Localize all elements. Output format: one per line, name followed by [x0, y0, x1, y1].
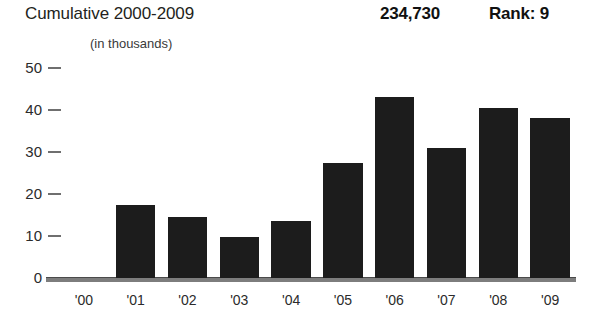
- bar: [427, 148, 466, 278]
- x-tick-label: '01: [110, 292, 162, 308]
- chart-page: Cumulative 2000-2009 234,730 Rank: 9 (in…: [0, 0, 590, 336]
- bar-series: [0, 0, 590, 336]
- x-tick-label: '04: [265, 292, 317, 308]
- bar: [530, 118, 569, 278]
- x-tick-label: '03: [213, 292, 265, 308]
- bar: [375, 97, 414, 278]
- x-tick-label: '05: [317, 292, 369, 308]
- x-tick-label: '09: [524, 292, 576, 308]
- bar-chart-plot: 01020304050 '00'01'02'03'04'05'06'07'08'…: [0, 0, 590, 336]
- x-tick-label: '06: [369, 292, 421, 308]
- x-tick-label: '02: [162, 292, 214, 308]
- bar: [168, 217, 207, 278]
- x-tick-label: '00: [58, 292, 110, 308]
- bar: [116, 205, 155, 279]
- x-tick-label: '08: [472, 292, 524, 308]
- bar: [220, 237, 259, 278]
- bar: [323, 163, 362, 279]
- bar: [479, 108, 518, 278]
- x-tick-label: '07: [421, 292, 473, 308]
- bar: [271, 221, 310, 278]
